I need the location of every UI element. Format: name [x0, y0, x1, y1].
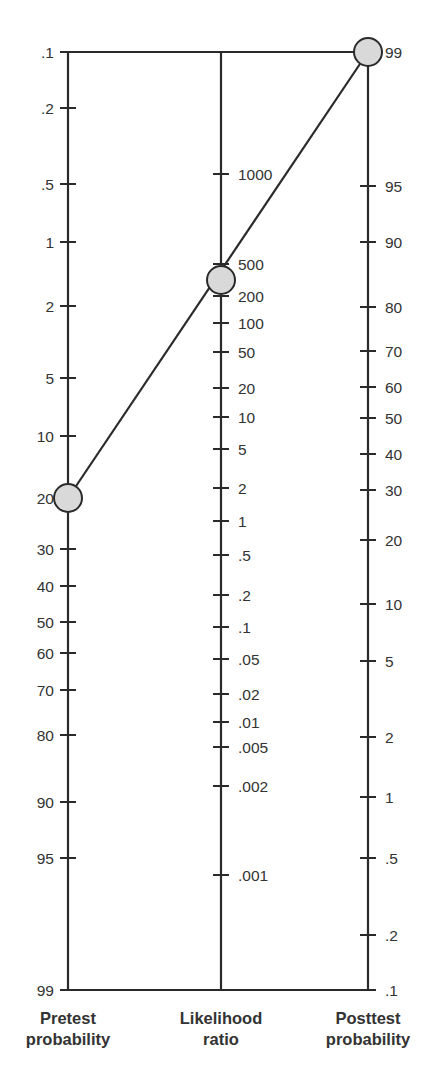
posttest-axis-title: probability — [326, 1030, 411, 1048]
pretest-tick-label: 2 — [45, 298, 54, 315]
likelihood-marker-circle — [207, 266, 235, 294]
likelihood-tick-label: 20 — [238, 380, 256, 397]
axis-likelihood: 1000500200100502010521.5.2.1.05.02.01.00… — [213, 52, 273, 990]
pretest-axis-title: Pretest — [40, 1009, 96, 1027]
posttest-tick-label: .5 — [385, 850, 398, 867]
posttest-tick-label: 5 — [385, 653, 394, 670]
likelihood-tick-label: 200 — [238, 288, 264, 305]
pretest-tick-label: 40 — [37, 578, 55, 595]
nomogram-axes: .1.2.51251020304050607080909599100050020… — [37, 44, 403, 999]
likelihood-tick-label: 5 — [238, 441, 247, 458]
axis-titles: PretestprobabilityLikelihoodratioPosttes… — [26, 1009, 411, 1048]
pretest-tick-label: 30 — [37, 541, 55, 558]
likelihood-tick-label: .001 — [238, 867, 268, 884]
axis-posttest: 9995908070605040302010521.5.2.1 — [360, 44, 403, 999]
likelihood-tick-label: .02 — [238, 686, 260, 703]
posttest-tick-label: .1 — [385, 982, 398, 999]
likelihood-tick-label: .01 — [238, 714, 260, 731]
pretest-tick-label: 60 — [37, 645, 55, 662]
likelihood-tick-label: .005 — [238, 739, 268, 756]
likelihood-tick-label: .2 — [238, 587, 251, 604]
likelihood-axis-title: Likelihood — [180, 1009, 263, 1027]
posttest-tick-label: 70 — [385, 343, 403, 360]
likelihood-tick-label: 50 — [238, 344, 256, 361]
pretest-tick-label: 80 — [37, 727, 55, 744]
likelihood-tick-label: 10 — [238, 409, 256, 426]
pretest-axis-title: probability — [26, 1030, 111, 1048]
likelihood-tick-label: 500 — [238, 256, 264, 273]
likelihood-tick-label: .5 — [238, 547, 251, 564]
pretest-tick-label: 10 — [37, 428, 55, 445]
pretest-tick-label: 99 — [37, 982, 54, 999]
posttest-tick-label: 50 — [385, 410, 403, 427]
posttest-tick-label: 40 — [385, 446, 403, 463]
posttest-tick-label: 90 — [385, 234, 403, 251]
pretest-tick-label: .5 — [41, 176, 54, 193]
pretest-tick-label: 90 — [37, 794, 55, 811]
pretest-tick-label: .1 — [41, 44, 54, 61]
likelihood-tick-label: .002 — [238, 778, 268, 795]
posttest-tick-label: 1 — [385, 789, 394, 806]
posttest-tick-label: 60 — [385, 379, 403, 396]
likelihood-tick-label: 1000 — [238, 166, 273, 183]
posttest-tick-label: 2 — [385, 729, 394, 746]
pretest-tick-label: 95 — [37, 850, 54, 867]
result-line-group — [54, 38, 382, 512]
pretest-tick-label: 70 — [37, 682, 55, 699]
fagan-nomogram: .1.2.51251020304050607080909599100050020… — [0, 0, 434, 1081]
posttest-tick-label: 20 — [385, 532, 403, 549]
pretest-tick-label: 5 — [45, 370, 54, 387]
posttest-tick-label: 99 — [385, 44, 402, 61]
pretest-tick-label: 50 — [37, 614, 55, 631]
likelihood-tick-label: .1 — [238, 619, 251, 636]
pretest-tick-label: 20 — [37, 490, 55, 507]
likelihood-tick-label: 2 — [238, 480, 247, 497]
pretest-tick-label: .2 — [41, 100, 54, 117]
posttest-axis-title: Posttest — [335, 1009, 401, 1027]
posttest-marker-circle — [354, 38, 382, 66]
posttest-tick-label: .2 — [385, 927, 398, 944]
likelihood-tick-label: 1 — [238, 513, 247, 530]
axis-pretest: .1.2.51251020304050607080909599 — [37, 44, 76, 999]
likelihood-tick-label: 100 — [238, 315, 264, 332]
posttest-tick-label: 10 — [385, 596, 403, 613]
posttest-tick-label: 30 — [385, 482, 403, 499]
likelihood-tick-label: .05 — [238, 651, 260, 668]
pretest-marker-circle — [54, 484, 82, 512]
pretest-tick-label: 1 — [45, 234, 54, 251]
likelihood-axis-title: ratio — [203, 1030, 239, 1048]
posttest-tick-label: 95 — [385, 178, 402, 195]
posttest-tick-label: 80 — [385, 299, 403, 316]
